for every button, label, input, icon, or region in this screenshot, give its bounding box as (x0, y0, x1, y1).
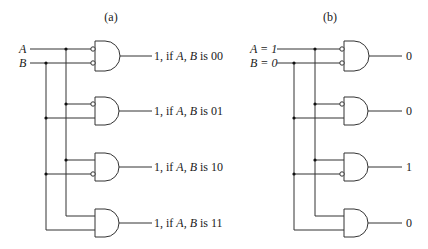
input-a-value-label: A = 1 (249, 42, 277, 56)
inverter-bubble-icon (340, 102, 344, 106)
panel-a: (a) A B (18, 10, 223, 237)
inverter-bubble-icon (340, 61, 344, 65)
junction-dot (64, 158, 67, 161)
inverter-bubble-icon (91, 172, 95, 176)
junction-dot (292, 172, 295, 175)
input-b-value-label: B = 0 (250, 56, 277, 70)
and-gate-11 (95, 209, 152, 237)
junction-dot (313, 47, 316, 50)
inverter-bubble-icon (91, 47, 95, 51)
and-gate-01 (91, 97, 152, 125)
junction-dot (292, 61, 295, 64)
output-label-00: 1, if A, B is 00 (154, 49, 223, 63)
and-gate-10 (91, 153, 152, 181)
output-value-10: 1 (406, 160, 412, 174)
inverter-bubble-icon (91, 102, 95, 106)
inverter-bubble-icon (340, 47, 344, 51)
junction-dot (44, 172, 47, 175)
input-a-label: A (18, 42, 27, 56)
and-gate-00 (91, 41, 152, 71)
output-value-01: 0 (406, 104, 412, 118)
panel-a-caption: (a) (104, 10, 117, 24)
junction-dot (64, 102, 67, 105)
junction-dot (64, 47, 67, 50)
and-gate-11 (344, 209, 402, 237)
and-gate-01 (340, 97, 402, 125)
output-value-11: 0 (406, 216, 412, 230)
panel-b: (b) A = 1 B = 0 (249, 10, 412, 237)
and-gate-00 (340, 41, 402, 71)
output-label-10: 1, if A, B is 10 (154, 160, 223, 174)
decoder-diagram: (a) A B (0, 0, 428, 249)
output-label-11: 1, if A, B is 11 (154, 216, 223, 230)
panel-b-caption: (b) (323, 10, 337, 24)
output-label-01: 1, if A, B is 01 (154, 104, 223, 118)
output-value-00: 0 (406, 49, 412, 63)
junction-dot (313, 158, 316, 161)
junction-dot (313, 102, 316, 105)
inverter-bubble-icon (340, 172, 344, 176)
inverter-bubble-icon (91, 61, 95, 65)
input-b-label: B (19, 56, 27, 70)
junction-dot (44, 116, 47, 119)
and-gate-10 (340, 153, 402, 181)
junction-dot (44, 61, 47, 64)
junction-dot (292, 116, 295, 119)
